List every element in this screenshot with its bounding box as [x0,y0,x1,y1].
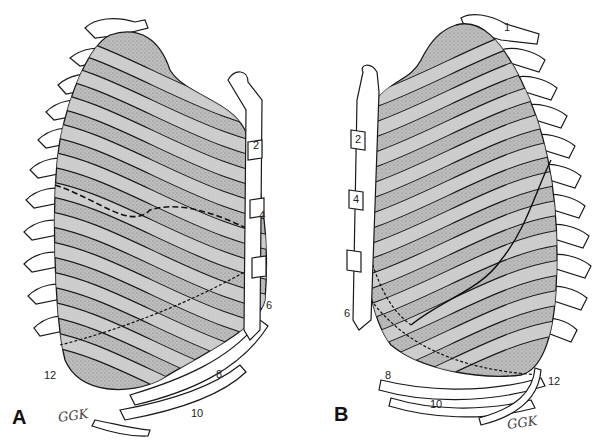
rib-label-8: 8 [216,369,222,380]
rib-label-12: 12 [44,370,56,381]
rib-label-4: 4 [259,210,265,221]
rib-label-6: 6 [344,308,350,319]
rib-label-4: 4 [353,194,359,205]
rib-label-10: 10 [191,408,203,419]
rib-label-10: 10 [430,399,442,410]
panel-b: 1 2 4 6 8 10 12 B GGK [301,0,602,441]
rib-label-2: 2 [355,134,361,145]
rib-label-1: 1 [504,22,510,33]
rib-label-6: 6 [266,300,272,311]
rib-label-8: 8 [385,370,391,381]
rib-label-2: 2 [253,140,259,151]
panel-letter-b: B [334,403,348,426]
panel-letter-a: A [12,406,26,429]
panel-a: 2 4 6 8 10 12 A GGK [0,0,301,441]
rib-label-12: 12 [548,376,560,387]
